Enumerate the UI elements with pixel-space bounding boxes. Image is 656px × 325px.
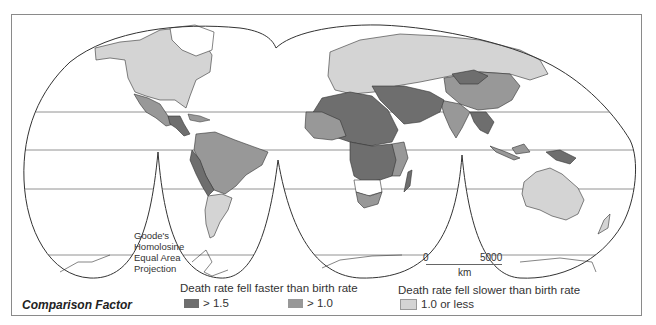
legend-title: Comparison Factor bbox=[22, 298, 132, 312]
legend-group-title-faster: Death rate fell faster than birth rate bbox=[180, 282, 358, 294]
legend-item-low: 1.0 or less bbox=[400, 298, 474, 310]
legend-swatch-mid bbox=[288, 299, 303, 308]
region-papua bbox=[546, 150, 576, 164]
scale-end: 5000 bbox=[480, 252, 502, 263]
region-southern-cone bbox=[205, 194, 232, 238]
scale-start: 0 bbox=[423, 252, 429, 263]
projection-label-line: Equal Area bbox=[134, 252, 184, 263]
region-new-zealand bbox=[598, 214, 610, 234]
region-central-america bbox=[168, 116, 190, 136]
projection-label: Goode's Homolosine Equal Area Projection bbox=[134, 230, 184, 274]
legend-label-mid: > 1.0 bbox=[307, 297, 333, 309]
region-se-asia bbox=[470, 112, 494, 134]
region-central-africa bbox=[350, 142, 398, 182]
projection-label-line: Goode's bbox=[134, 230, 184, 241]
legend-label-low: 1.0 or less bbox=[421, 298, 474, 310]
legend-group-title-slower: Death rate fell slower than birth rate bbox=[398, 284, 580, 296]
scale-bar: 0 5000 km bbox=[418, 252, 508, 282]
projection-label-line: Projection bbox=[134, 263, 184, 274]
projection-label-line: Homolosine bbox=[134, 241, 184, 252]
legend-item-mid: > 1.0 bbox=[288, 297, 333, 309]
scale-unit: km bbox=[458, 267, 471, 278]
legend-swatch-low bbox=[400, 299, 417, 310]
legend-label-high: > 1.5 bbox=[203, 297, 229, 309]
legend-swatch-high bbox=[184, 299, 199, 308]
world-map bbox=[0, 0, 656, 325]
scale-line bbox=[426, 264, 502, 265]
region-indonesia bbox=[490, 144, 530, 160]
region-caribbean bbox=[188, 114, 210, 122]
region-australia bbox=[522, 168, 584, 220]
legend-item-high: > 1.5 bbox=[184, 297, 229, 309]
